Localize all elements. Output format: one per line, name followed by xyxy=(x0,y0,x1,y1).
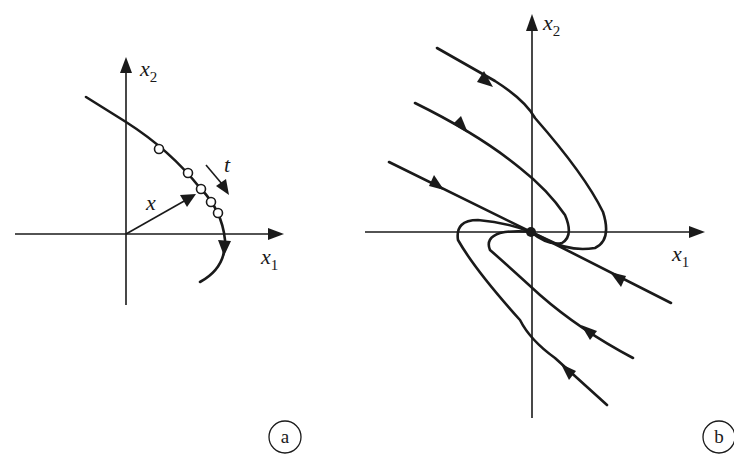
panel-a-x2-label: x2 xyxy=(139,56,157,85)
panel-a-sample-point xyxy=(155,145,164,154)
panel-b: x2 x1 b xyxy=(365,10,734,453)
panel-a-trajectory-arrowhead-icon xyxy=(218,240,231,256)
panel-a-x1-arrowhead-icon xyxy=(268,228,284,240)
panel-a-vector-label: x xyxy=(145,190,156,215)
panel-b-trajectory-5-arrowhead-icon xyxy=(581,325,597,340)
panel-b-equilibrium-point xyxy=(526,227,536,237)
panel-b-trajectory-3-arrowhead-icon xyxy=(429,175,444,190)
panel-a-x2-arrowhead-icon xyxy=(120,57,132,73)
panel-b-label: b xyxy=(714,426,724,447)
panel-b-trajectory-1 xyxy=(437,48,606,249)
panel-a-time-arrowhead-icon xyxy=(216,179,229,195)
panel-a-sample-point xyxy=(214,209,223,218)
panel-b-x1-arrowhead-icon xyxy=(689,226,705,238)
phase-portrait-figure: x2 x1 x t a x2 x1 xyxy=(0,0,734,475)
panel-a: x2 x1 x t a xyxy=(15,56,301,453)
panel-a-state-vector xyxy=(126,200,186,234)
panel-a-state-vector-arrowhead-icon xyxy=(180,194,196,207)
panel-a-sample-point xyxy=(184,169,193,178)
panel-b-trajectory-2-arrowhead-icon xyxy=(453,116,468,133)
panel-b-trajectory-3 xyxy=(389,162,531,232)
panel-a-sample-point xyxy=(197,185,206,194)
panel-b-trajectory-6-arrowhead-icon xyxy=(561,364,576,380)
panel-b-trajectory-5 xyxy=(489,231,633,358)
panel-a-time-label: t xyxy=(224,152,231,177)
panel-a-label: a xyxy=(281,426,290,447)
panel-a-x1-label: x1 xyxy=(260,244,278,273)
panel-b-x2-label: x2 xyxy=(542,10,560,39)
panel-b-trajectory-4-arrowhead-icon xyxy=(610,272,626,287)
panel-a-sample-point xyxy=(207,198,216,207)
panel-b-x1-label: x1 xyxy=(671,241,689,270)
panel-b-x2-arrowhead-icon xyxy=(526,14,538,31)
panel-a-time-arrow xyxy=(206,165,222,184)
